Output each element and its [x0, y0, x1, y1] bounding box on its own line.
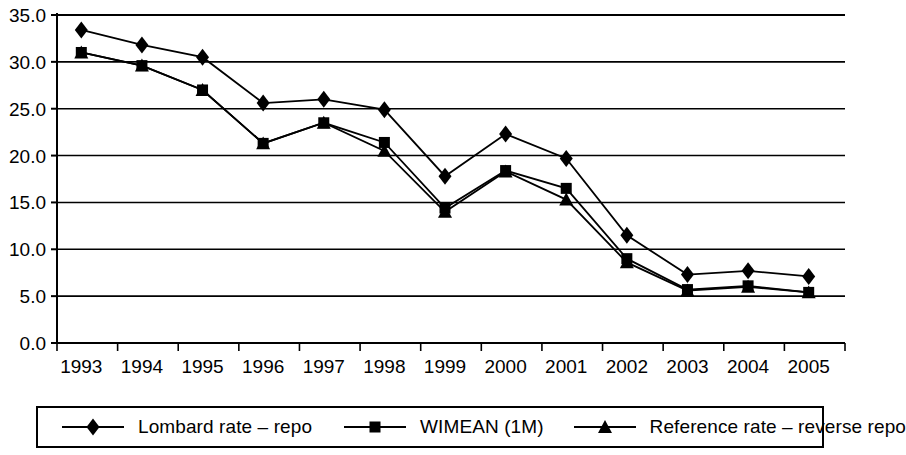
- y-tick-label: 15.0: [9, 192, 46, 213]
- data-point-marker: [681, 266, 694, 283]
- x-tick-label: 2000: [484, 356, 526, 377]
- x-tick-label: 2004: [727, 356, 770, 377]
- data-point-marker: [802, 268, 815, 285]
- y-tick-label: 30.0: [9, 52, 46, 73]
- series-markers: [74, 21, 815, 298]
- y-tick-labels: 0.05.010.015.020.025.030.035.0: [9, 5, 46, 354]
- legend-entry-1[interactable]: Lombard rate – repo: [60, 408, 312, 446]
- line-chart-svg: 0.05.010.015.020.025.030.035.0 199319941…: [0, 0, 860, 392]
- chart-legend: Lombard rate – repoWIMEAN (1M)Reference …: [36, 406, 824, 448]
- x-tick-label: 1997: [303, 356, 345, 377]
- series-line-1: [81, 30, 808, 276]
- legend-entry-2[interactable]: WIMEAN (1M): [342, 408, 544, 446]
- y-tick-label: 20.0: [9, 146, 46, 167]
- x-tick-label: 1994: [121, 356, 164, 377]
- y-tick-label: 25.0: [9, 99, 46, 120]
- plot-area: 0.05.010.015.020.025.030.035.0 199319941…: [0, 0, 860, 392]
- triangle-marker-icon: [572, 417, 638, 437]
- x-tick-label: 2002: [606, 356, 648, 377]
- x-tick-label: 1996: [242, 356, 284, 377]
- y-tick-label: 35.0: [9, 5, 46, 26]
- x-tick-label: 1993: [60, 356, 102, 377]
- data-point-marker: [317, 91, 330, 108]
- x-tick-label: 2005: [788, 356, 830, 377]
- data-point-marker: [561, 183, 572, 194]
- y-tick-label: 10.0: [9, 239, 46, 260]
- x-axis: [57, 343, 845, 351]
- legend-entry-3[interactable]: Reference rate – reverse repo: [572, 408, 906, 446]
- y-axis: [51, 13, 57, 343]
- legend-entries: Lombard rate – repoWIMEAN (1M)Reference …: [38, 408, 822, 446]
- data-point-marker: [499, 126, 512, 143]
- x-tick-label: 1999: [424, 356, 466, 377]
- data-point-marker: [135, 36, 148, 53]
- y-tick-label: 0.0: [20, 333, 46, 354]
- square-marker-icon: [342, 417, 408, 437]
- diamond-marker-icon: [60, 417, 126, 437]
- x-tick-label: 2001: [545, 356, 587, 377]
- legend-label: WIMEAN (1M): [420, 416, 544, 438]
- x-tick-labels: 1993199419951996199719981999200020012002…: [60, 356, 830, 377]
- data-point-marker: [196, 49, 209, 66]
- data-point-marker: [75, 21, 88, 38]
- legend-label: Lombard rate – repo: [138, 416, 312, 438]
- gridlines: [57, 15, 845, 343]
- x-tick-label: 1998: [363, 356, 405, 377]
- legend-label: Reference rate – reverse repo: [650, 416, 906, 438]
- data-point-marker: [742, 262, 755, 279]
- x-tick-label: 1995: [181, 356, 223, 377]
- y-tick-label: 5.0: [20, 286, 46, 307]
- series-lines: [81, 30, 808, 292]
- x-tick-label: 2003: [666, 356, 708, 377]
